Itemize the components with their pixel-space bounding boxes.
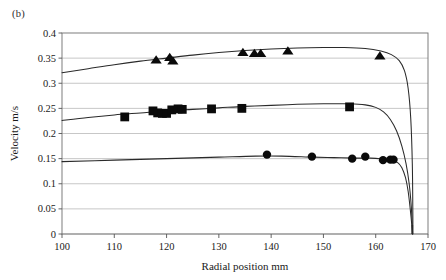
xtick-label: 130 bbox=[211, 241, 227, 252]
ytick-label: 0.15 bbox=[38, 153, 56, 164]
xtick-label: 120 bbox=[159, 241, 175, 252]
xtick-label: 140 bbox=[263, 241, 279, 252]
x-axis-title: Radial position mm bbox=[202, 260, 289, 272]
y-axis-title: Velocity m/s bbox=[8, 106, 20, 161]
data-point-circle bbox=[308, 152, 316, 160]
data-point-triangle bbox=[374, 51, 385, 59]
ytick-label: 0.25 bbox=[38, 103, 56, 114]
series-fit-curve-1 bbox=[62, 47, 413, 234]
series-fit-curve-3 bbox=[62, 156, 412, 234]
ytick-label: 0 bbox=[51, 229, 56, 240]
chart-canvas: 00.050.10.150.20.250.30.350.410011012013… bbox=[0, 0, 446, 280]
ytick-label: 0.1 bbox=[43, 178, 56, 189]
ytick-label: 0.3 bbox=[43, 78, 56, 89]
data-point-circle bbox=[361, 152, 369, 160]
data-point-circle bbox=[389, 155, 397, 163]
xtick-label: 160 bbox=[368, 241, 384, 252]
ytick-label: 0.4 bbox=[43, 28, 57, 39]
ytick-label: 0.2 bbox=[43, 128, 56, 139]
velocity-profile-figure: (b) 00.050.10.150.20.250.30.350.41001101… bbox=[0, 0, 446, 280]
data-point-square bbox=[207, 104, 216, 113]
data-point-square bbox=[345, 102, 354, 111]
data-point-square bbox=[120, 113, 129, 122]
xtick-label: 110 bbox=[107, 241, 122, 252]
ytick-label: 0.35 bbox=[38, 53, 56, 64]
xtick-label: 150 bbox=[316, 241, 332, 252]
xtick-label: 100 bbox=[54, 241, 70, 252]
data-point-square bbox=[178, 105, 187, 114]
ytick-label: 0.05 bbox=[38, 203, 56, 214]
data-point-square bbox=[237, 104, 246, 113]
data-point-circle bbox=[348, 154, 356, 162]
data-point-circle bbox=[379, 156, 387, 164]
series-fit-curve-2 bbox=[62, 104, 413, 234]
data-point-triangle bbox=[237, 48, 248, 56]
data-point-triangle bbox=[282, 46, 293, 54]
data-point-circle bbox=[263, 150, 271, 158]
xtick-label: 170 bbox=[420, 241, 436, 252]
